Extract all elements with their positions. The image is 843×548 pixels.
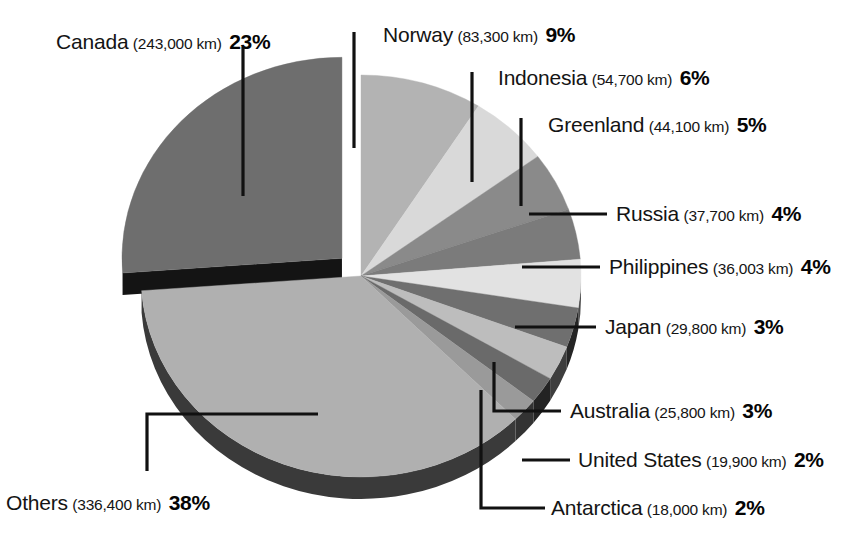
slice-label-japan-value: (29,800 km) — [666, 320, 747, 337]
pie-chart: Coastlines of the world — longest coastl… — [0, 0, 843, 548]
slice-label-japan: Japan (29,800 km) 3% — [605, 316, 783, 337]
slice-label-canada-value: (243,000 km) — [133, 35, 222, 52]
slice-label-norway-percent: 9% — [545, 23, 575, 46]
slice-label-united-states-percent: 2% — [794, 448, 824, 471]
slice-label-antarctica-name: Antarctica — [551, 496, 642, 519]
slice-label-norway-name: Norway — [383, 23, 453, 46]
slice-label-australia-name: Australia — [570, 399, 650, 422]
slice-label-japan-percent: 3% — [754, 315, 784, 338]
slice-label-canada-percent: 23% — [229, 30, 270, 53]
slice-label-indonesia-percent: 6% — [680, 66, 710, 89]
slice-label-others-value: (336,400 km) — [72, 496, 161, 513]
slice-label-australia: Australia (25,800 km) 3% — [570, 400, 772, 421]
slice-label-canada-name: Canada — [56, 30, 128, 53]
slice-label-united-states-value: (19,900 km) — [706, 453, 787, 470]
slice-label-indonesia: Indonesia (54,700 km) 6% — [498, 67, 709, 88]
slice-label-antarctica-percent: 2% — [735, 496, 765, 519]
slice-label-antarctica-value: (18,000 km) — [647, 501, 728, 518]
slice-label-greenland-name: Greenland — [548, 113, 644, 136]
slice-label-russia: Russia (37,700 km) 4% — [616, 203, 801, 224]
slice-label-antarctica: Antarctica (18,000 km) 2% — [551, 497, 765, 518]
slice-label-greenland-value: (44,100 km) — [649, 118, 730, 135]
slice-label-russia-name: Russia — [616, 202, 679, 225]
slice-label-philippines-value: (36,003 km) — [713, 260, 794, 277]
slice-label-greenland: Greenland (44,100 km) 5% — [548, 114, 766, 135]
slice-label-norway-value: (83,300 km) — [457, 28, 538, 45]
slice-label-russia-percent: 4% — [771, 202, 801, 225]
slice-label-philippines: Philippines (36,003 km) 4% — [609, 256, 831, 277]
slice-label-norway: Norway (83,300 km) 9% — [383, 24, 575, 45]
slice-label-philippines-name: Philippines — [609, 255, 708, 278]
slice-label-indonesia-name: Indonesia — [498, 66, 587, 89]
slice-label-philippines-percent: 4% — [801, 255, 831, 278]
slice-label-united-states-name: United States — [578, 448, 701, 471]
slice-label-japan-name: Japan — [605, 315, 661, 338]
slice-label-russia-value: (37,700 km) — [683, 207, 764, 224]
slice-label-greenland-percent: 5% — [737, 113, 767, 136]
slice-label-canada: Canada (243,000 km) 23% — [56, 31, 270, 52]
slice-label-others: Others (336,400 km) 38% — [6, 492, 210, 513]
slice-label-others-name: Others — [6, 491, 68, 514]
slice-label-australia-value: (25,800 km) — [654, 404, 735, 421]
slice-label-indonesia-value: (54,700 km) — [592, 71, 673, 88]
slice-label-others-percent: 38% — [169, 491, 210, 514]
slice-label-australia-percent: 3% — [742, 399, 772, 422]
slice-label-united-states: United States (19,900 km) 2% — [578, 449, 824, 470]
